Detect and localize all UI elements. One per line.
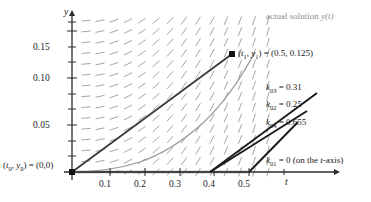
actual-solution-curve bbox=[72, 52, 255, 172]
k02-label: k02 = 0.25 bbox=[266, 100, 302, 111]
k01-value: = 0 (on the bbox=[277, 155, 321, 165]
x-tick-05: 0.5 bbox=[238, 180, 250, 190]
y-axis-label: y bbox=[64, 8, 68, 18]
k02-value: = 0.25 bbox=[277, 99, 302, 109]
endpoint-annotation: (t1, y1) = (0.5, 0.125) bbox=[238, 49, 313, 60]
slope-field-figure: y t 0.15 0.10 0.05 0.1 0.2 0.3 0.4 0.5 a… bbox=[0, 0, 371, 202]
k03-label: k03 = 0.31 bbox=[266, 83, 302, 94]
k04-value: = 0.655 bbox=[277, 117, 307, 127]
k03-value: = 0.31 bbox=[277, 82, 302, 92]
endpoint-marker bbox=[229, 51, 235, 57]
actual-solution-text: actual solution bbox=[266, 11, 321, 21]
k01-label: k01 = 0 (on the t-axis) bbox=[266, 156, 343, 167]
x-tick-02: 0.2 bbox=[134, 180, 146, 190]
euler-step-line bbox=[72, 54, 232, 172]
x-axis-label: t bbox=[285, 178, 288, 188]
k01-axis-tail: -axis) bbox=[323, 155, 344, 165]
figure-canvas bbox=[0, 0, 371, 202]
x-tick-03: 0.3 bbox=[169, 180, 181, 190]
origin-annotation: (t0, y0) = (0,0) bbox=[3, 161, 53, 172]
actual-solution-function: y(t) bbox=[321, 11, 334, 21]
actual-solution-label: actual solution y(t) bbox=[266, 12, 334, 21]
y-tick-005: 0.05 bbox=[33, 121, 50, 131]
origin-point-marker bbox=[69, 169, 75, 175]
y-tick-010: 0.10 bbox=[33, 74, 50, 84]
k04-label: k04 = 0.655 bbox=[266, 118, 306, 129]
x-tick-01: 0.1 bbox=[99, 180, 111, 190]
origin-value: ) = (0,0) bbox=[24, 160, 54, 170]
y-tick-015: 0.15 bbox=[33, 43, 50, 53]
x-tick-04: 0.4 bbox=[203, 180, 215, 190]
endpoint-value: ) = (0.5, 0.125) bbox=[259, 48, 314, 58]
